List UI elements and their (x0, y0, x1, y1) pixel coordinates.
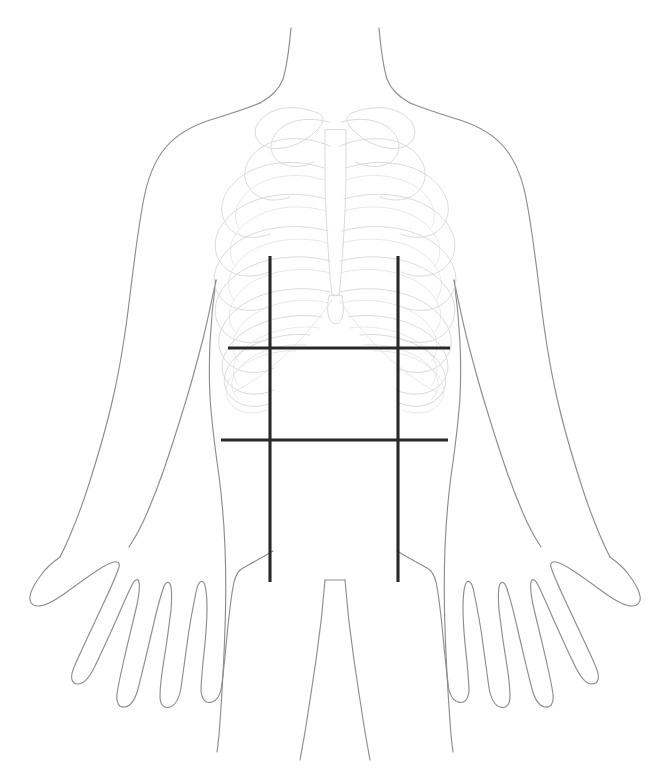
left-armpit-inner-contour (129, 280, 216, 547)
clavicle-right-icon (347, 108, 415, 149)
left-inner-thigh-edge (300, 580, 325, 760)
rib-2-left (245, 139, 330, 200)
xiphoid-process-icon (328, 296, 344, 324)
abdominal-region-diagram (0, 0, 671, 769)
neck-left-edge (260, 28, 291, 103)
right-arm-outer-contour (410, 103, 610, 557)
left-hand-outline (30, 551, 273, 708)
clavicle-left-icon (255, 108, 323, 149)
rib-8-right-inner (350, 327, 437, 386)
rib-8-left-inner (233, 327, 320, 386)
rib-10-left (226, 351, 296, 413)
nine-region-grid-group (221, 256, 450, 582)
rib-10-right (374, 351, 444, 413)
rib-7-right-inner (341, 300, 437, 362)
right-hand-outline (397, 551, 640, 708)
body-figure-svg (0, 0, 671, 769)
rib-2-right (340, 139, 425, 200)
torso-right-edge (444, 280, 460, 752)
body-outline-group (30, 28, 640, 760)
left-arm-outer-contour (60, 103, 260, 557)
rib-3-right-inner (346, 175, 434, 228)
right-armpit-inner-contour (454, 280, 541, 547)
right-inner-thigh-edge (345, 580, 370, 760)
sternum-icon (325, 130, 346, 295)
rib-3-left-inner (236, 175, 324, 228)
rib-cage-group (214, 108, 456, 413)
rib-7-left-inner (233, 300, 329, 362)
neck-right-edge (379, 28, 410, 103)
rib-9-right-inner (364, 345, 438, 399)
torso-left-edge (209, 280, 225, 752)
